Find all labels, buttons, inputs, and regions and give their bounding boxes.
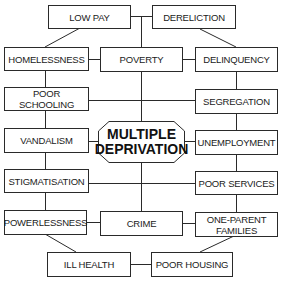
node-label: CRIME (127, 218, 157, 229)
node-label: POOR HOUSING (156, 259, 229, 270)
node-vandalism: VANDALISM (4, 128, 89, 153)
node-poor-housing: POOR HOUSING (151, 252, 233, 277)
node-stigmatisation: STIGMATISATION (4, 169, 89, 193)
node-poor-schooling: POOR SCHOOLING (4, 87, 89, 111)
node-label: SEGREGATION (203, 96, 270, 107)
node-label-line2: FAMILIES (216, 225, 257, 236)
node-label: VANDALISM (20, 135, 72, 146)
node-label: STIGMATISATION (8, 176, 84, 187)
node-one-parent-families: ONE-PARENT FAMILIES (195, 212, 278, 237)
node-crime: CRIME (100, 211, 183, 236)
node-segregation: SEGREGATION (195, 89, 278, 114)
node-label: DERELICTION (163, 12, 225, 23)
node-homelessness: HOMELESSNESS (4, 47, 89, 71)
node-label: HOMELESSNESS (8, 54, 84, 65)
center-label-line1: MULTIPLE (107, 127, 176, 142)
center-label: MULTIPLE DEPRIVATION (98, 121, 185, 163)
node-ill-health: ILL HEALTH (47, 252, 131, 277)
node-label: POVERTY (120, 54, 164, 65)
center-node-multiple-deprivation: MULTIPLE DEPRIVATION (98, 121, 185, 163)
node-unemployment: UNEMPLOYMENT (195, 130, 278, 155)
node-label-line1: ONE-PARENT (207, 214, 267, 225)
node-label: POOR SERVICES (199, 178, 275, 189)
node-label: POWERLESSNESS (4, 217, 87, 228)
node-label: UNEMPLOYMENT (198, 137, 276, 148)
node-dereliction: DERELICTION (152, 5, 236, 29)
node-label: ILL HEALTH (64, 259, 114, 270)
node-powerlessness: POWERLESSNESS (4, 210, 87, 235)
node-label-line1: POOR (33, 88, 60, 99)
node-label: DELINQUENCY (203, 54, 269, 65)
node-low-pay: LOW PAY (48, 5, 131, 29)
node-delinquency: DELINQUENCY (195, 47, 278, 72)
node-poor-services: POOR SERVICES (195, 171, 278, 195)
center-label-line2: DEPRIVATION (95, 142, 189, 157)
node-label-line2: SCHOOLING (19, 99, 74, 110)
node-label: LOW PAY (69, 12, 109, 23)
node-poverty: POVERTY (100, 47, 183, 72)
